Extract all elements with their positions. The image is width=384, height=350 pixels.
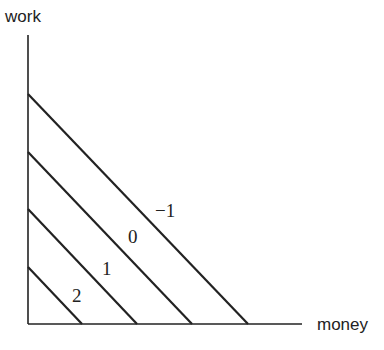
x-axis-label: money <box>317 315 369 334</box>
level-lines <box>28 94 248 324</box>
level-label-1: 1 <box>102 258 112 279</box>
level-line-1 <box>28 209 137 324</box>
level-line-0 <box>28 152 192 324</box>
level-line-minus-1 <box>28 94 248 324</box>
level-label-minus-1: −1 <box>155 200 175 221</box>
y-axis-label: work <box>4 7 41 26</box>
level-label-0: 0 <box>128 226 138 247</box>
indifference-diagram: work money 2 1 0 −1 <box>0 0 384 350</box>
level-label-2: 2 <box>72 285 82 306</box>
